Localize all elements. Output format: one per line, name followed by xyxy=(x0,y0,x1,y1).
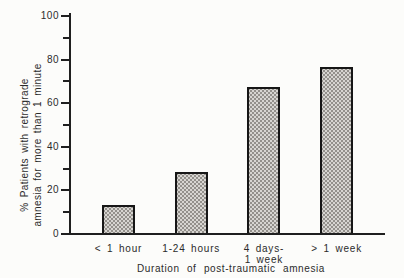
y-major-tick xyxy=(61,146,69,148)
y-tick-label: 20 xyxy=(27,184,59,196)
y-minor-tick xyxy=(63,168,69,170)
bar xyxy=(247,87,280,233)
y-minor-tick xyxy=(63,80,69,82)
y-tick-label: 100 xyxy=(27,10,59,22)
y-major-tick xyxy=(61,102,69,104)
y-minor-tick xyxy=(63,211,69,213)
y-minor-tick xyxy=(63,37,69,39)
y-minor-tick xyxy=(63,124,69,126)
y-major-tick xyxy=(61,15,69,17)
y-major-tick xyxy=(61,233,69,235)
y-tick-label: 60 xyxy=(27,97,59,109)
x-axis-line xyxy=(69,233,385,235)
y-major-tick xyxy=(61,189,69,191)
y-major-tick xyxy=(61,59,69,61)
y-axis-line xyxy=(69,13,71,235)
y-tick-label: 80 xyxy=(27,54,59,66)
x-axis-title: Duration of post-traumatic amnesia xyxy=(90,263,372,274)
bar xyxy=(175,172,208,233)
bar xyxy=(102,205,135,233)
bar-chart-figure: % Patients with retrograde amnesia for m… xyxy=(0,0,404,278)
x-tick-label: > 1 week xyxy=(292,243,382,254)
y-tick-label: 40 xyxy=(27,141,59,153)
y-tick-label: 0 xyxy=(27,228,59,240)
bar xyxy=(320,67,353,233)
